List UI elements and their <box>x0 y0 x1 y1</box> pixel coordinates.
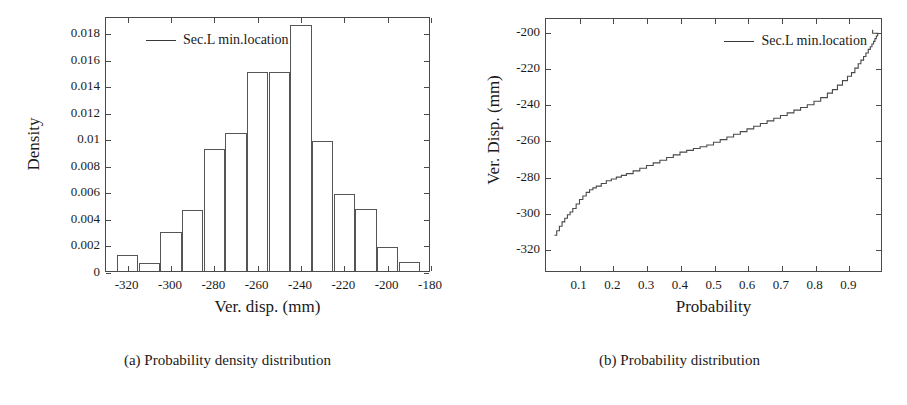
y-tick <box>106 61 111 62</box>
histogram-bar <box>334 194 356 271</box>
x-tick <box>647 19 648 24</box>
caption-a: (a) Probability density distribution <box>0 352 455 369</box>
x-tick-label: -320 <box>115 277 139 293</box>
x-tick <box>849 19 850 24</box>
y-tick <box>546 178 551 179</box>
x-axis-title-b: Probability <box>545 297 882 317</box>
x-tick-label: 0.9 <box>840 277 856 293</box>
y-tick-label: 0.016 <box>71 52 100 68</box>
x-tick-label: -220 <box>331 277 355 293</box>
x-tick <box>301 266 302 271</box>
x-axis-title-a: Ver. disp. (mm) <box>105 297 430 317</box>
y-tick <box>876 33 881 34</box>
x-tick <box>715 19 716 24</box>
x-tick <box>214 266 215 271</box>
x-tick-label: 0.1 <box>571 277 587 293</box>
x-tick <box>782 19 783 24</box>
x-tick <box>816 266 817 271</box>
y-tick <box>106 193 111 194</box>
legend-a: Sec.L min.location <box>146 32 289 48</box>
y-tick <box>106 220 111 221</box>
y-tick <box>106 34 111 35</box>
y-tick <box>876 69 881 70</box>
cdf-curve <box>546 19 881 271</box>
x-tick <box>681 19 682 24</box>
plot-area-b: Sec.L min.location <box>545 18 882 272</box>
y-tick-label: 0.006 <box>71 184 100 200</box>
y-tick <box>876 141 881 142</box>
x-tick <box>816 19 817 24</box>
y-tick <box>876 178 881 179</box>
y-tick <box>546 250 551 251</box>
y-tick-label: -240 <box>516 96 540 112</box>
y-tick <box>424 220 429 221</box>
y-tick <box>876 105 881 106</box>
x-tick <box>388 18 389 23</box>
histogram-bar <box>139 263 161 271</box>
y-tick <box>424 193 429 194</box>
y-tick-label: 0.012 <box>71 105 100 121</box>
x-tick <box>748 19 749 24</box>
y-tick <box>546 141 551 142</box>
y-tick <box>876 214 881 215</box>
x-tick <box>748 266 749 271</box>
y-tick <box>424 167 429 168</box>
x-tick <box>301 18 302 23</box>
y-tick <box>106 273 111 274</box>
x-tick <box>128 18 129 23</box>
y-tick <box>106 114 111 115</box>
x-tick-label: 0.5 <box>705 277 721 293</box>
y-tick-label: 0.002 <box>71 237 100 253</box>
x-tick <box>258 18 259 23</box>
x-tick <box>258 266 259 271</box>
x-tick-label: -200 <box>375 277 399 293</box>
y-tick-label: 0.018 <box>71 25 100 41</box>
x-tick <box>171 266 172 271</box>
y-tick <box>106 246 111 247</box>
x-tick <box>613 19 614 24</box>
y-tick <box>424 114 429 115</box>
y-tick-label: -320 <box>516 241 540 257</box>
panel-probability-distribution: Ver. Disp. (mm) Probability -200-220-240… <box>452 0 907 405</box>
histogram-bar <box>247 72 269 271</box>
x-tick-label: -240 <box>288 277 312 293</box>
y-tick <box>546 214 551 215</box>
plot-area-a: Sec.L min.location <box>105 17 430 272</box>
y-tick-label: 0.008 <box>71 158 100 174</box>
legend-label-a: Sec.L min.location <box>183 32 289 48</box>
y-tick-label: -260 <box>516 132 540 148</box>
x-tick <box>715 266 716 271</box>
y-tick-label: 0.014 <box>71 78 100 94</box>
legend-line-icon-b <box>724 41 754 42</box>
y-tick-label: -280 <box>516 169 540 185</box>
y-tick <box>106 140 111 141</box>
y-tick-label: -200 <box>516 24 540 40</box>
y-tick <box>106 87 111 88</box>
histogram-bar <box>182 210 204 271</box>
x-tick <box>388 266 389 271</box>
y-tick <box>424 61 429 62</box>
x-tick <box>613 266 614 271</box>
y-tick <box>424 246 429 247</box>
x-tick-labels-a: -320-300-280-260-240-220-200-180 <box>105 277 430 297</box>
x-tick <box>344 266 345 271</box>
legend-b: Sec.L min.location <box>724 33 867 49</box>
histogram-bar <box>269 72 291 271</box>
histogram-bar <box>355 209 377 271</box>
y-tick <box>424 140 429 141</box>
x-tick <box>344 18 345 23</box>
y-tick-label: -300 <box>516 205 540 221</box>
x-tick <box>580 266 581 271</box>
legend-line-icon-a <box>146 40 176 41</box>
histogram-bar <box>290 25 312 271</box>
x-tick-label: -260 <box>245 277 269 293</box>
y-tick <box>424 34 429 35</box>
legend-label-b: Sec.L min.location <box>761 33 867 49</box>
histogram-bar <box>312 141 334 271</box>
x-tick-label: -300 <box>158 277 182 293</box>
x-tick-label: 0.2 <box>604 277 620 293</box>
x-tick-label: -280 <box>201 277 225 293</box>
x-tick <box>431 266 432 271</box>
x-tick <box>681 266 682 271</box>
x-tick-label: 0.8 <box>806 277 822 293</box>
